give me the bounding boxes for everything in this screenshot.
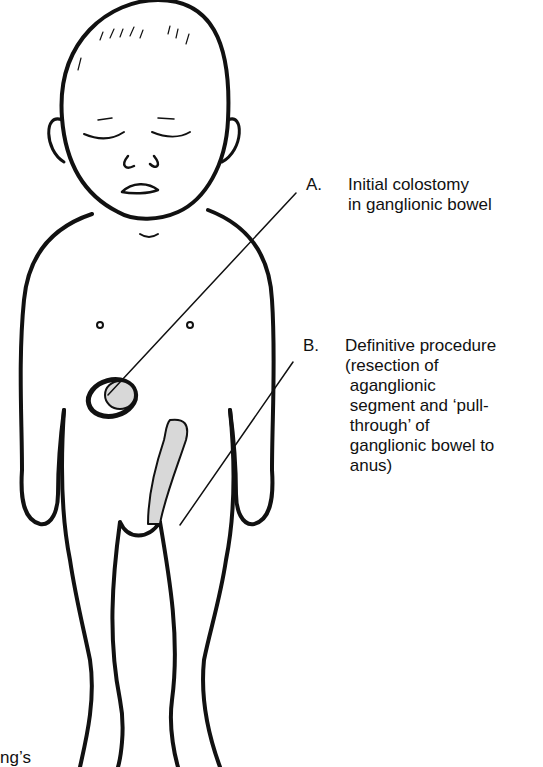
label-a-letter: A. — [306, 175, 322, 195]
right-eye — [152, 132, 190, 137]
label-a-text: Initial colostomy in ganglionic bowel — [348, 175, 492, 215]
hair-strokes — [78, 26, 189, 70]
left-eye — [84, 132, 124, 138]
left-nipple — [97, 322, 103, 328]
head-outline — [62, 0, 229, 219]
left-eyebrow — [98, 118, 112, 120]
label-b-text: Definitive procedure (resection of agang… — [345, 336, 496, 476]
pullthrough-bowel — [148, 420, 187, 524]
right-eyebrow — [158, 118, 174, 119]
mouth — [122, 184, 158, 193]
leader-line-a — [108, 193, 296, 395]
colostomy-bowel — [105, 381, 135, 409]
nose — [124, 156, 158, 168]
right-nipple — [187, 322, 193, 328]
cropped-caption-fragment: ng’s — [0, 748, 31, 767]
label-b-letter: B. — [303, 336, 319, 356]
legs-outline — [62, 410, 233, 767]
neck-crease — [140, 234, 158, 237]
